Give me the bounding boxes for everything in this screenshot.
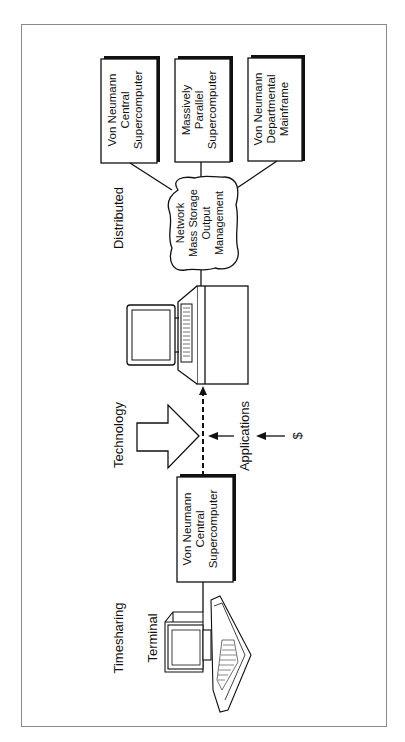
box4-line2: Central xyxy=(194,510,206,547)
terminal-label: Terminal xyxy=(145,613,160,662)
arrowhead-up-icon xyxy=(199,386,207,395)
money-label: $ xyxy=(290,432,305,440)
box1-line1: Von Neumann xyxy=(106,74,118,147)
box2-line1: Massively xyxy=(180,85,192,136)
section-label-distributed: Distributed xyxy=(111,187,126,249)
diagram-svg: Von Neumann Central Supercomputer Massiv… xyxy=(0,0,405,742)
applications-label: Applications xyxy=(237,400,252,471)
section-label-timesharing: Timesharing xyxy=(111,602,126,673)
money-arrowhead-icon xyxy=(256,432,266,440)
cloud-line4: Management xyxy=(213,191,225,255)
edge-cloud-to-box1 xyxy=(130,163,172,190)
diagram-canvas: Von Neumann Central Supercomputer Massiv… xyxy=(0,0,405,742)
cloud-line2: Mass Storage xyxy=(187,189,199,257)
box3-line1: Von Neumann xyxy=(252,73,264,146)
section-label-technology: Technology xyxy=(111,402,126,468)
box4-line1: Von Neumann xyxy=(181,493,193,566)
box3-line2: Departmental xyxy=(265,74,277,143)
box2-line2: Parallel xyxy=(193,91,205,129)
applications-arrowhead-icon xyxy=(208,432,218,440)
box3-line3: Mainframe xyxy=(278,82,290,136)
workstation-icon xyxy=(127,286,248,384)
box1-line2: Central xyxy=(119,91,131,128)
terminal-icon xyxy=(165,596,251,712)
cloud-line1: Network xyxy=(174,202,186,243)
technology-arrow-icon xyxy=(137,405,199,468)
box1-line3: Supercomputer xyxy=(132,71,144,150)
cloud-line3: Output xyxy=(200,206,212,239)
box2-line3: Supercomputer xyxy=(206,71,218,150)
edge-cloud-to-box3 xyxy=(234,161,277,190)
box4-line3: Supercomputer xyxy=(207,490,219,569)
